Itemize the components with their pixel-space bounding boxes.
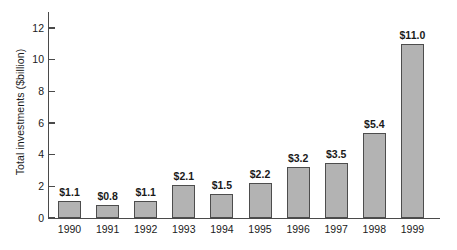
x-axis-line [48,218,440,219]
bar [134,201,157,218]
y-tick-label-text: 6 [24,118,44,129]
bar-value-label: $3.5 [314,149,359,160]
y-tick-mark [49,59,55,60]
bar [401,44,424,218]
y-tick-mark [49,154,55,155]
y-tick-label: 10 [24,54,44,65]
bar-value-label: $2.2 [238,169,283,180]
y-tick-mark [49,91,55,92]
y-tick-mark [49,122,55,123]
y-tick-label: 4 [24,149,44,160]
y-tick-label: 2 [24,181,44,192]
bar [172,185,195,218]
y-tick-label-text: 0 [24,213,44,224]
y-tick-label: 0 [24,213,44,224]
x-tick-label: 1999 [392,224,433,235]
x-tick-label: 1991 [87,224,128,235]
y-tick-label-text: 8 [24,86,44,97]
bar-chart: Total investments ($billion) 024681012 $… [0,0,457,250]
bar [325,163,348,218]
y-tick-mark [49,217,55,218]
y-tick-label-text: 12 [24,23,44,34]
x-tick-label: 1996 [278,224,319,235]
bar [58,201,81,218]
y-tick-label-text: 2 [24,181,44,192]
y-tick-label: 8 [24,86,44,97]
y-tick-label-text: 10 [24,54,44,65]
bar-value-label: $1.1 [123,187,168,198]
x-tick-label: 1994 [201,224,242,235]
bar-value-label: $1.5 [199,180,244,191]
x-tick-label: 1990 [49,224,90,235]
bar [363,133,386,219]
x-tick-label: 1992 [125,224,166,235]
y-tick-label: 12 [24,23,44,34]
x-tick-label: 1998 [354,224,395,235]
x-tick-label: 1995 [240,224,281,235]
bar [210,194,233,218]
bar-value-label: $5.4 [352,119,397,130]
x-tick-label: 1997 [316,224,357,235]
y-tick-mark [49,27,55,28]
bar [249,183,272,218]
x-tick-label: 1993 [163,224,204,235]
bar-value-label: $11.0 [390,30,435,41]
y-tick-label-text: 4 [24,149,44,160]
bar [287,167,310,218]
y-tick-label: 6 [24,118,44,129]
bar [96,205,119,218]
